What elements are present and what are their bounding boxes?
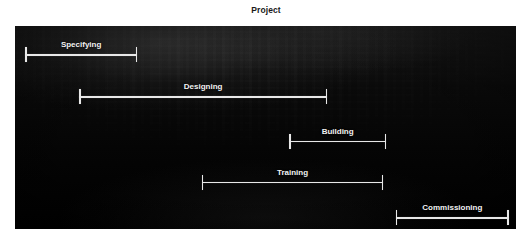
task-bar-line: [289, 141, 386, 143]
task-bar-line: [25, 54, 137, 56]
task-bar-line: [79, 96, 327, 98]
task-bar-label: Building: [289, 127, 386, 137]
gantt-chart: Project SpecifyingDesigningBuildingTrain…: [0, 0, 532, 241]
task-bar-label: Commissioning: [396, 203, 509, 213]
task-bar-label: Training: [202, 168, 383, 178]
task-bar-line: [396, 217, 509, 219]
plot-texture-overlay: [15, 26, 516, 229]
page-title: Project: [0, 4, 532, 16]
task-bar-line: [202, 182, 383, 184]
plot-area: SpecifyingDesigningBuildingTrainingCommi…: [15, 26, 516, 229]
task-bar-label: Designing: [79, 82, 327, 92]
task-bar-label: Specifying: [25, 40, 137, 50]
